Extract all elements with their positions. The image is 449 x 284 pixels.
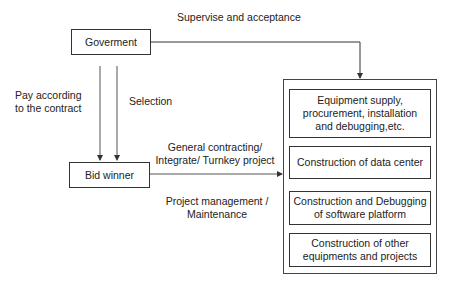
pay-label: Pay according to the contract — [15, 89, 82, 115]
pm-line2: Maintenance — [162, 208, 272, 221]
scope-item-other-projects: Construction of other equipments and pro… — [289, 233, 431, 267]
supervise-label: Supervise and acceptance — [177, 11, 301, 24]
scope-item-data-center: Construction of data center — [289, 146, 431, 179]
government-node: Goverment — [71, 29, 151, 55]
project-management-label: Project management / Maintenance — [162, 195, 272, 221]
scope-text: equipments and projects — [303, 250, 417, 263]
government-label: Goverment — [85, 36, 137, 49]
scope-text: procurement, installation — [303, 107, 417, 120]
scope-item-equipment: Equipment supply, procurement, installat… — [289, 89, 431, 138]
bid-winner-node: Bid winner — [69, 162, 150, 188]
general-line2: Integrate/ Turnkey project — [155, 154, 275, 167]
general-line1: General contracting/ — [155, 141, 275, 154]
scope-text: Construction of data center — [297, 156, 423, 169]
scope-text: Construction and Debugging — [293, 195, 426, 208]
scope-text: Equipment supply, — [317, 94, 403, 107]
scope-text: Construction of other — [311, 237, 408, 250]
general-contracting-label: General contracting/ Integrate/ Turnkey … — [155, 141, 275, 167]
bid-winner-label: Bid winner — [85, 169, 134, 182]
pm-line1: Project management / — [162, 195, 272, 208]
scope-item-software-platform: Construction and Debugging of software p… — [289, 191, 431, 225]
pay-label-line1: Pay according — [15, 89, 82, 102]
scope-text: of software platform — [314, 208, 406, 221]
selection-label: Selection — [129, 95, 172, 108]
scope-text: and debugging,etc. — [315, 120, 404, 133]
pay-label-line2: to the contract — [15, 102, 82, 115]
